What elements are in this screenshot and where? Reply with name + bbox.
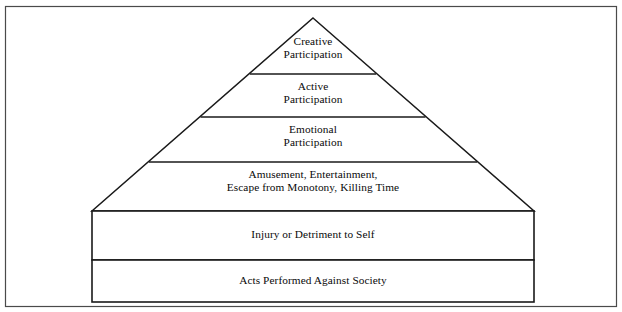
tier-label-active-participation: Active Participation [213,80,413,107]
tier-label-emotional-participation: Emotional Participation [213,123,413,150]
tier-label-acts-performed-against-society: Acts Performed Against Society [112,274,514,287]
tier-label-creative-participation: Creative Participation [213,35,413,62]
pyramid-diagram: Creative Participation Active Participat… [0,0,622,312]
tier-label-amusement-entertainment: Amusement, Entertainment, Escape from Mo… [163,168,463,195]
tier-label-injury-or-detriment-to-self: Injury or Detriment to Self [112,228,514,241]
